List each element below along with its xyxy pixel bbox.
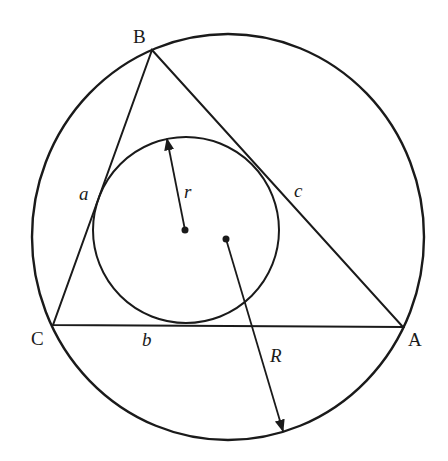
side-label-a: a [79, 184, 89, 203]
vertex-label-b: B [133, 27, 146, 46]
vertex-label-c: C [31, 329, 44, 348]
side-label-c: c [294, 181, 302, 200]
diagram-svg [0, 0, 448, 461]
triangle-abc [53, 50, 403, 327]
circumradius-arrow [226, 239, 283, 431]
side-label-b: b [142, 330, 152, 349]
triangle-circles-diagram: B C A a b c r R [0, 0, 448, 461]
inradius-label: r [184, 182, 191, 201]
circumradius-label: R [270, 346, 282, 365]
vertex-label-a: A [408, 330, 422, 349]
inradius-arrow [167, 139, 185, 230]
